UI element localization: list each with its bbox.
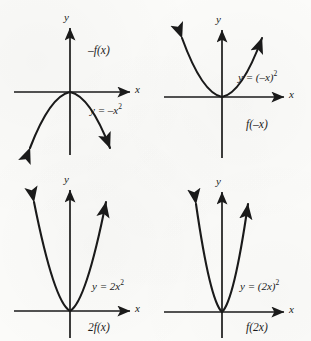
x-axis-label: x <box>135 84 140 95</box>
x-axis-label: x <box>289 89 294 100</box>
panel-bottom-left-graph <box>0 170 155 341</box>
equation-exponent: 2 <box>276 278 280 287</box>
equation-main-text: y = (–x) <box>238 71 274 83</box>
panel-top-left-graph <box>0 0 155 170</box>
equation-exponent: 2 <box>120 278 124 287</box>
y-axis-label: y <box>64 174 69 185</box>
panel-top-left: y x –f(x) y = –x2 <box>0 0 155 170</box>
equation-main-text: y = (2x) <box>240 280 276 292</box>
equation-main-text: y = –x <box>90 104 118 116</box>
x-axis-label: x <box>289 304 294 315</box>
equation-exponent: 2 <box>274 69 278 78</box>
panel-bottom-right-graph <box>156 170 311 341</box>
transform-label-f-neg-x: f(–x) <box>246 119 268 131</box>
y-axis-label: y <box>216 14 221 25</box>
equation-main-text: y = 2x <box>92 280 120 292</box>
panel-top-right-graph <box>156 0 311 170</box>
transform-label-2-f-x: 2f(x) <box>88 322 110 334</box>
y-axis-label: y <box>216 176 221 187</box>
panel-top-right: y x y = (–x)2 f(–x) <box>156 0 311 170</box>
equation-label-bottom-left: y = 2x2 <box>92 281 124 292</box>
transform-label-neg-f-x: –f(x) <box>88 45 110 57</box>
equation-label-top-right: y = (–x)2 <box>238 72 277 83</box>
equation-label-bottom-right: y = (2x)2 <box>240 281 279 292</box>
parabola-transformations-figure: y x –f(x) y = –x2 y x y = (–x)2 f(–x) <box>0 0 311 341</box>
y-axis-label: y <box>64 12 69 23</box>
panel-bottom-right: y x y = (2x)2 f(2x) <box>156 170 311 340</box>
panel-bottom-left: y x y = 2x2 2f(x) <box>0 170 155 340</box>
equation-label-top-left: y = –x2 <box>90 105 122 116</box>
equation-exponent: 2 <box>118 102 122 111</box>
transform-label-f-2x: f(2x) <box>246 322 268 334</box>
x-axis-label: x <box>135 303 140 314</box>
